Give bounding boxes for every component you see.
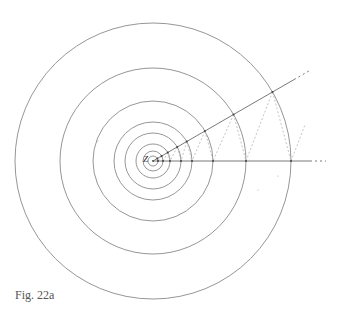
diagonal-intersection: [167, 152, 169, 154]
spiral-construction-diagram: [0, 0, 339, 319]
stray-marks: [97, 140, 278, 190]
diagonal-intersection: [176, 146, 178, 148]
horizontal-intersection: [212, 160, 214, 162]
horizontal-intersection: [157, 160, 159, 162]
rays: [153, 71, 326, 161]
horizontal-intersection: [180, 160, 182, 162]
horizontal-intersection: [169, 160, 171, 162]
diagonal-ray-continuation: [298, 71, 308, 77]
horizontal-intersection: [245, 160, 247, 162]
diagonal-ray: [153, 79, 296, 162]
figure-caption: Fig. 22a: [15, 288, 54, 303]
diagonal-intersection: [233, 114, 235, 116]
horizontal-intersection: [162, 160, 164, 162]
dashed-link: [246, 92, 273, 161]
dashed-link-continuation: [291, 125, 305, 161]
dashed-link: [213, 115, 234, 162]
diagonal-intersection: [161, 155, 163, 157]
dashed-link: [192, 131, 205, 161]
center-label: Z: [143, 154, 148, 164]
dashed-link: [273, 92, 291, 161]
diagonal-intersection: [186, 141, 188, 143]
diagonal-intersection: [156, 158, 158, 160]
dashed-link: [234, 115, 246, 162]
horizontal-intersection: [290, 160, 292, 162]
dashed-link: [205, 131, 213, 161]
center-point: [152, 160, 154, 162]
diagonal-intersection: [204, 130, 206, 132]
intersection-points: [152, 91, 292, 162]
horizontal-intersection: [191, 160, 193, 162]
diagonal-intersection: [272, 91, 274, 93]
